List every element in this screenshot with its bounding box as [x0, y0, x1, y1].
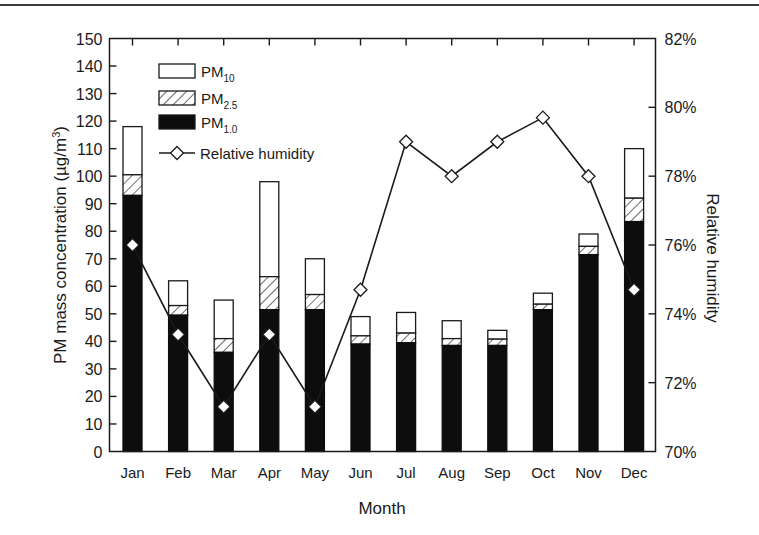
pm10-segment — [169, 281, 188, 306]
legend-item-relative-humidity: Relative humidity — [159, 145, 315, 162]
pm10-segment — [397, 312, 416, 333]
pm1-segment — [488, 345, 507, 451]
pm-humidity-chart: 0102030405060708090100110120130140150 70… — [0, 0, 759, 535]
svg-text:PM10: PM10 — [201, 63, 235, 84]
legend-item-pm10: PM1.0 — [159, 114, 238, 135]
pm25-segment — [625, 198, 644, 221]
bar-group — [123, 127, 644, 452]
x-axis-title: Month — [358, 499, 405, 518]
pm25-segment — [533, 304, 552, 310]
svg-text:PM1.0: PM1.0 — [201, 114, 238, 135]
bar-oct — [533, 293, 552, 451]
svg-text:PM2.5: PM2.5 — [201, 90, 238, 111]
y-tick-label: 110 — [77, 141, 103, 158]
x-tick-label: Jun — [348, 464, 372, 481]
pm1-segment — [397, 343, 416, 452]
pm10-segment — [123, 127, 142, 175]
pm1-segment — [351, 344, 370, 451]
pm10-segment — [442, 321, 461, 339]
x-tick-label: Nov — [575, 464, 602, 481]
y-tick-label: 100 — [76, 168, 103, 185]
pm25-segment — [305, 295, 324, 310]
x-tick-label: Jan — [120, 464, 144, 481]
y-tick-label: 50 — [85, 306, 103, 323]
x-tick-label: Feb — [165, 464, 191, 481]
pm1-segment — [123, 195, 142, 451]
x-tick-label: Jul — [397, 464, 416, 481]
bar-jul — [397, 312, 416, 451]
pm1-segment — [442, 345, 461, 451]
bar-jun — [351, 317, 370, 452]
pm10-segment — [260, 182, 279, 277]
bar-aug — [442, 321, 461, 452]
humidity-marker — [445, 170, 458, 183]
pm25-segment — [397, 333, 416, 343]
legend: PM10PM2.5PM1.0Relative humidity — [159, 63, 315, 162]
pm25-segment — [169, 306, 188, 316]
pm10-segment — [533, 293, 552, 304]
pm1-segment — [305, 310, 324, 452]
left-axis-title: PM mass concentration (µg/m3) — [50, 126, 70, 364]
pm10-segment — [488, 330, 507, 339]
y2-tick-label: 80% — [665, 99, 697, 116]
bar-mar — [214, 300, 233, 451]
humidity-marker — [491, 135, 504, 148]
y2-tick-label: 72% — [665, 375, 697, 392]
x-tick-label: Dec — [621, 464, 648, 481]
pm10-segment — [625, 149, 644, 199]
pm25-segment — [442, 339, 461, 346]
bar-jan — [123, 127, 142, 452]
y-tick-label: 20 — [85, 388, 103, 405]
pm1-segment — [625, 222, 644, 452]
pm10-segment — [214, 300, 233, 339]
y-tick-label: 0 — [94, 444, 103, 461]
x-tick-label: Oct — [531, 464, 555, 481]
svg-text:Relative humidity: Relative humidity — [200, 145, 315, 162]
bar-apr — [260, 182, 279, 452]
y-tick-label: 40 — [85, 333, 103, 350]
x-tick-label: Aug — [438, 464, 465, 481]
pm25-segment — [488, 339, 507, 345]
pm25-segment — [260, 277, 279, 310]
y2-tick-label: 78% — [665, 168, 697, 185]
humidity-marker — [400, 135, 413, 148]
legend-item-pm25: PM2.5 — [159, 90, 238, 111]
pm10-segment — [351, 317, 370, 336]
pm1-segment — [533, 310, 552, 452]
pm1-segment — [579, 255, 598, 452]
x-tick-label: Apr — [258, 464, 281, 481]
bar-may — [305, 259, 324, 452]
y-tick-label: 60 — [85, 278, 103, 295]
y-tick-label: 10 — [85, 416, 103, 433]
bar-dec — [625, 149, 644, 452]
y2-tick-label: 70% — [665, 444, 697, 461]
pm10-segment — [305, 259, 324, 295]
y2-tick-label: 74% — [665, 306, 697, 323]
pm25-segment — [579, 246, 598, 254]
pm10-segment — [579, 234, 598, 246]
bar-nov — [579, 234, 598, 452]
bar-feb — [169, 281, 188, 452]
y2-tick-label: 76% — [665, 237, 697, 254]
y2-tick-label: 82% — [665, 31, 697, 48]
x-axis: JanFebMarAprMayJunJulAugSepOctNovDec — [120, 39, 648, 482]
pm25-segment — [123, 175, 142, 196]
pm25-segment — [351, 336, 370, 344]
left-y-axis: 0102030405060708090100110120130140150 — [76, 31, 117, 461]
bar-sep — [488, 330, 507, 451]
y-tick-label: 120 — [76, 113, 103, 130]
y-tick-label: 140 — [76, 58, 103, 75]
y-tick-label: 70 — [85, 251, 103, 268]
humidity-marker — [354, 283, 367, 296]
y-tick-label: 150 — [76, 31, 103, 48]
x-tick-label: May — [301, 464, 330, 481]
y-tick-label: 80 — [85, 223, 103, 240]
right-axis-title: Relative humidity — [703, 193, 722, 323]
legend-item-pm10: PM10 — [159, 63, 235, 84]
y-tick-label: 130 — [76, 86, 103, 103]
y-tick-label: 30 — [85, 361, 103, 378]
x-tick-label: Sep — [484, 464, 511, 481]
x-tick-label: Mar — [211, 464, 237, 481]
pm25-segment — [214, 339, 233, 353]
y-tick-label: 90 — [85, 196, 103, 213]
